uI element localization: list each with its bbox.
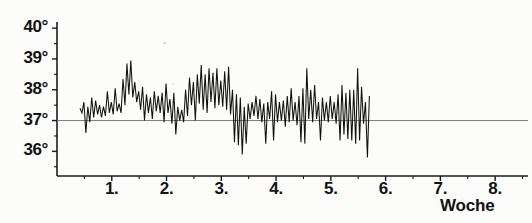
temperature-series-group: [80, 61, 369, 158]
x-tick-label: 4.: [261, 179, 291, 199]
temperature-curve: [80, 61, 369, 158]
x-tick-label: 2.: [152, 179, 182, 199]
x-axis-title: Woche: [440, 196, 494, 216]
axis-lines: [57, 22, 528, 176]
x-tick-label: 5.: [316, 179, 346, 199]
x-tick-label: 6.: [371, 179, 401, 199]
y-tick-label: 39°: [4, 48, 48, 68]
y-tick-label: 38°: [4, 79, 48, 99]
y-tick-label: 36°: [4, 140, 48, 160]
x-tick-label: 1.: [97, 179, 127, 199]
fever-chart-figure: 36°37°38°39°40° 1.2.3.4.5.6.7.8. Woche: [0, 0, 532, 223]
paper-speck: [172, 83, 174, 85]
y-tick-label: 37°: [4, 110, 48, 130]
paper-speck: [163, 42, 166, 44]
x-tick-label: 3.: [206, 179, 236, 199]
y-tick-label: 40°: [4, 17, 48, 37]
